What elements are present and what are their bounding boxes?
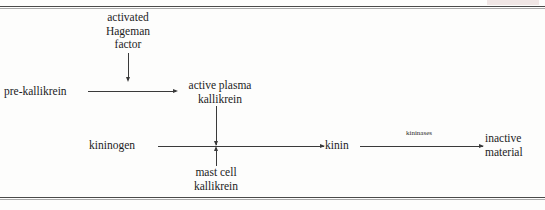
edge-label-kininases: kininases: [390, 129, 448, 137]
top-rule: [0, 6, 545, 7]
scan-artifact: [487, 0, 539, 5]
top-rule-hairline: [0, 8, 545, 9]
kinin-pathway-diagram: activated Hageman factor pre-kallikrein …: [0, 0, 545, 210]
node-activated-hageman-factor: activated Hageman factor: [88, 11, 168, 52]
arrowhead-right-icon: [479, 144, 484, 148]
edge-kininogen-to-kinin: [158, 146, 324, 147]
node-active-plasma-kallikrein: active plasma kallikrein: [178, 79, 262, 106]
edge-active-plasma-kallikrein-to-kininogen: [216, 106, 217, 145]
arrowhead-down-icon: [126, 77, 130, 82]
bottom-rule: [0, 197, 545, 198]
bottom-rule-hairline: [0, 199, 545, 200]
node-kininogen: kininogen: [89, 139, 157, 153]
node-pre-kallikrein: pre-kallikrein: [4, 85, 88, 99]
arrowhead-up-icon: [214, 146, 218, 151]
node-mast-cell-kallikrein: mast cell kallikrein: [174, 166, 258, 193]
edge-kinin-to-inactive-material: [360, 146, 483, 147]
edge-pre-kallikrein-to-active-plasma-kallikrein: [88, 91, 176, 92]
node-kinin: kinin: [325, 139, 359, 153]
edge-hageman-to-active-plasma-kallikrein: [128, 53, 129, 79]
node-inactive-material: inactive material: [485, 132, 543, 159]
